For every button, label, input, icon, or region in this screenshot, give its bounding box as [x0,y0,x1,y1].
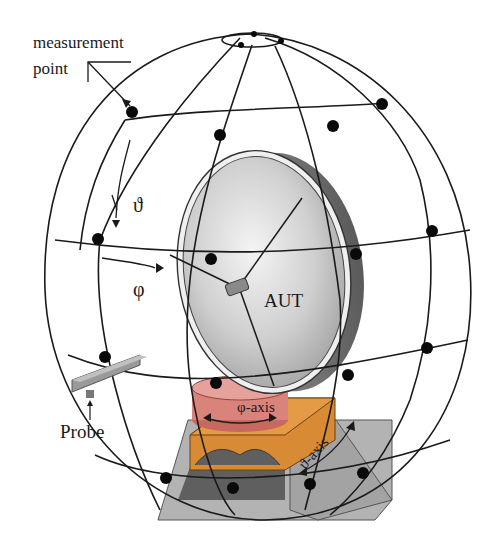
measurement-point [426,225,438,237]
phi-axis-label: φ-axis [237,399,275,415]
measurement-point [304,478,316,490]
aut-label: AUT [264,290,303,311]
measurement-point [214,129,226,141]
measurement-point [210,377,222,389]
measurement-point [350,248,362,260]
measurement-point [278,38,284,44]
phi-label: φ [133,278,145,301]
measurement-point [99,351,111,363]
measurement-point-label-line1: measurement [33,33,124,52]
measurement-point [421,342,433,354]
spherical-nearfield-diagram: measurement point ϑ φ AUT Probe φ-axis ϑ… [0,0,503,550]
measurement-point [251,31,257,37]
measurement-point [357,467,369,479]
measurement-point [92,233,104,245]
probe-label: Probe [60,421,104,442]
measurement-point [227,482,239,494]
measurement-point [376,98,388,110]
measurement-point [342,369,354,381]
measurement-point-label-line2: point [33,59,68,78]
measurement-point [238,42,244,48]
measurement-point [160,472,172,484]
measurement-point [126,106,138,118]
aut-dish [162,139,379,405]
measurement-point [205,253,217,265]
theta-label: ϑ [133,194,143,216]
measurement-point [327,120,339,132]
